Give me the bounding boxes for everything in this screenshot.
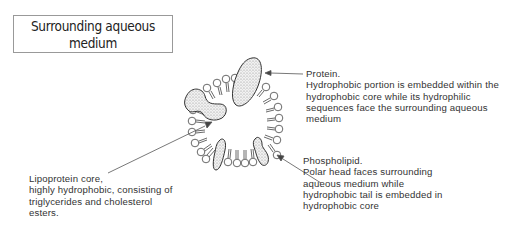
phospholipid-label-line: hydrophobic tail is embedded in bbox=[303, 189, 443, 200]
lipoprotein-core-label: Lipoprotein core, highly hydrophobic, co… bbox=[29, 173, 173, 218]
bottom-left-protein-icon bbox=[213, 139, 225, 170]
phospholipid-icon bbox=[257, 83, 270, 97]
protein-label-line: Hydrophobic portion is embedded within t… bbox=[306, 79, 499, 90]
core-label-line: esters. bbox=[29, 207, 173, 218]
phospholipid-icon bbox=[222, 75, 230, 92]
phospholipid-icon bbox=[264, 135, 281, 144]
phospholipid-label-line: Polar head faces surrounding bbox=[303, 166, 443, 177]
phospholipid-icon bbox=[213, 79, 222, 95]
protein-label-line: medium bbox=[306, 113, 499, 124]
protein-label-line: hydrophobic core while its hydrophilic bbox=[306, 91, 499, 102]
core-label-line: triglycerides and cholesterol bbox=[29, 196, 173, 207]
phospholipid-label-title: Phospholipid. bbox=[303, 155, 443, 166]
phospholipid-label-line: hydrophobic core bbox=[303, 200, 443, 211]
phospholipid-icon bbox=[241, 150, 249, 167]
phospholipid-icon bbox=[267, 125, 283, 133]
arrowhead-icon bbox=[265, 71, 271, 76]
protein-label: Protein. Hydrophobic portion is embedded… bbox=[306, 68, 499, 124]
phospholipid-icon bbox=[266, 103, 282, 112]
core-label-line: highly hydrophobic, consisting of bbox=[29, 184, 173, 195]
phospholipid-icon bbox=[224, 149, 232, 166]
phospholipid-label: Phospholipid. Polar head faces surroundi… bbox=[303, 155, 443, 211]
large-oval-protein-icon bbox=[232, 58, 261, 106]
phospholipid-icon bbox=[263, 92, 278, 104]
protein-label-title: Protein. bbox=[306, 68, 499, 79]
phospholipid-icon bbox=[191, 138, 207, 147]
phospholipid-icon bbox=[188, 117, 205, 125]
phospholipid-icon bbox=[188, 128, 205, 136]
phospholipid-icon bbox=[197, 144, 212, 156]
phospholipid-icon bbox=[233, 150, 241, 167]
protein-label-line: sequences face the surrounding aqueous bbox=[306, 102, 499, 113]
arrowhead-icon bbox=[205, 122, 212, 128]
phospholipid-icon bbox=[267, 114, 283, 122]
core-label-title: Lipoprotein core, bbox=[29, 173, 173, 184]
phospholipid-label-line: aqueous medium while bbox=[303, 178, 443, 189]
